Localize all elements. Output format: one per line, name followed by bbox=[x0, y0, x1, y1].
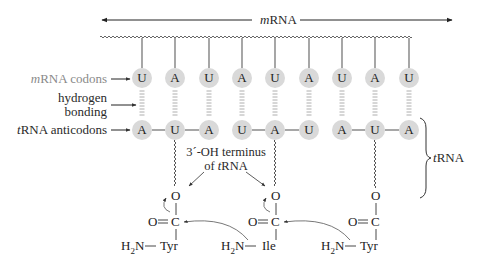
terminus-label: 3´-OH terminus of tRNA bbox=[186, 145, 266, 173]
anticodon-base: A bbox=[399, 120, 419, 140]
codon-base: A bbox=[232, 68, 252, 88]
electron-arrow-2 bbox=[264, 198, 270, 212]
anticodon-base: A bbox=[265, 120, 285, 140]
carbonyl-oxygen-3: O bbox=[348, 215, 357, 229]
codon-base: A bbox=[365, 68, 385, 88]
mrna-codons-text: RNA codons bbox=[40, 71, 107, 86]
amine-n: N bbox=[135, 238, 144, 253]
amine-h: H bbox=[321, 238, 330, 253]
codon-base: U bbox=[399, 68, 419, 88]
trna-brace-label: tRNA bbox=[433, 151, 464, 165]
trna-brace-rna: RNA bbox=[437, 150, 464, 165]
bonding-text: bonding bbox=[58, 105, 107, 119]
terminus-arrow-left bbox=[189, 172, 204, 186]
amino-acid-3: Tyr bbox=[360, 239, 378, 253]
carbon-3: C bbox=[371, 215, 380, 229]
hydrogen-bonding-label: hydrogen bonding bbox=[58, 91, 107, 119]
anticodon-base: U bbox=[232, 120, 252, 140]
terminus-arrow-right bbox=[246, 172, 265, 186]
mrna-codons-m: m bbox=[31, 71, 40, 86]
anticodon-base: U bbox=[365, 120, 385, 140]
terminus-rna: RNA bbox=[221, 159, 247, 173]
electron-arrow-1 bbox=[164, 198, 170, 212]
amine-1: H2N bbox=[121, 239, 144, 258]
trna-anticodons-text: RNA anticodons bbox=[21, 122, 107, 137]
amine-n: N bbox=[335, 238, 344, 253]
ester-oxygen-1: O bbox=[171, 189, 180, 203]
amine-n: N bbox=[235, 238, 244, 253]
anticodon-base: U bbox=[299, 120, 319, 140]
amine-h: H bbox=[121, 238, 130, 253]
trna-anticodons-label: tRNA anticodons bbox=[17, 123, 107, 137]
ester-oxygen-2: O bbox=[271, 189, 280, 203]
codon-base: A bbox=[299, 68, 319, 88]
carbon-2: C bbox=[271, 215, 280, 229]
codon-base: A bbox=[165, 68, 185, 88]
amino-acid-2: Ile bbox=[262, 239, 276, 253]
codon-stems bbox=[142, 38, 409, 68]
carbonyl-oxygen-1: O bbox=[148, 215, 157, 229]
carbon-1: C bbox=[171, 215, 180, 229]
codon-base: U bbox=[199, 68, 219, 88]
amino-acid-1: Tyr bbox=[160, 239, 178, 253]
anticodon-base: A bbox=[132, 120, 152, 140]
codon-base: U bbox=[332, 68, 352, 88]
anticodon-base: U bbox=[165, 120, 185, 140]
mrna-backbone bbox=[100, 36, 412, 38]
hydrogen-bonds bbox=[140, 91, 412, 115]
terminus-line1: 3´-OH terminus bbox=[186, 145, 266, 159]
mrna-codons-label: mRNA codons bbox=[31, 72, 107, 86]
amine-h: H bbox=[221, 238, 230, 253]
codon-base: U bbox=[132, 68, 152, 88]
amine-3: H2N bbox=[321, 239, 344, 258]
codon-base: U bbox=[265, 68, 285, 88]
carbonyl-oxygen-2: O bbox=[248, 215, 257, 229]
mrna-title: mRNA bbox=[257, 13, 300, 27]
mrna-title-rna: RNA bbox=[269, 12, 296, 27]
ester-oxygen-3: O bbox=[371, 189, 380, 203]
anticodon-base: A bbox=[199, 120, 219, 140]
terminus-of: of bbox=[204, 159, 218, 173]
amine-2: H2N bbox=[221, 239, 244, 258]
terminus-line2: of tRNA bbox=[186, 159, 266, 173]
anticodon-base: A bbox=[332, 120, 352, 140]
trna-brace bbox=[420, 118, 431, 198]
mrna-title-m: m bbox=[260, 12, 269, 27]
hydrogen-text: hydrogen bbox=[58, 91, 107, 105]
